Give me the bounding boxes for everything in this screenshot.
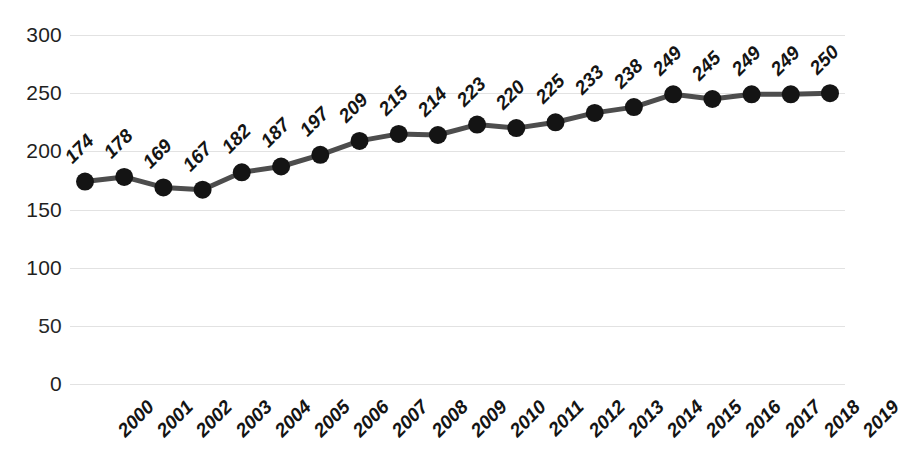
x-tick-label: 2012 (584, 396, 629, 441)
plot-area: 1741781691671821871972092152142232202252… (70, 35, 845, 384)
x-tick-label: 2011 (544, 396, 588, 440)
y-tick-label: 150 (6, 199, 62, 220)
x-tick-label: 2004 (270, 396, 315, 441)
x-tick-label: 2002 (192, 396, 237, 441)
x-tick-label: 2009 (466, 396, 511, 441)
data-point-marker (272, 158, 290, 176)
x-tick-label: 2019 (858, 396, 903, 441)
x-tick-label: 2010 (505, 396, 550, 441)
x-tick-label: 2014 (662, 396, 707, 441)
y-tick-label: 100 (6, 257, 62, 278)
data-point-marker (194, 181, 212, 199)
x-tick-label: 2017 (780, 396, 825, 441)
data-point-marker (586, 104, 604, 122)
data-point-marker (429, 126, 447, 144)
gridline (70, 384, 845, 385)
data-point-marker (625, 98, 643, 116)
data-point-marker (547, 113, 565, 131)
x-tick-label: 2018 (819, 396, 864, 441)
scan-artifact (12, 324, 23, 327)
x-axis: 2000200120022003200420052006200720082009… (70, 392, 845, 472)
data-point-marker (821, 84, 839, 102)
data-point-marker (743, 85, 761, 103)
data-point-marker (664, 85, 682, 103)
data-point-marker (154, 178, 172, 196)
x-tick-label: 2008 (427, 396, 472, 441)
y-axis: 300250200150100500 (0, 35, 62, 384)
y-tick-label: 250 (6, 82, 62, 103)
data-point-marker (703, 90, 721, 108)
x-tick-label: 2000 (113, 396, 158, 441)
series-path (85, 93, 830, 190)
data-point-marker (233, 163, 251, 181)
series-line (70, 35, 845, 384)
data-point-marker (507, 119, 525, 137)
data-point-marker (115, 168, 133, 186)
data-point-marker (782, 85, 800, 103)
y-tick-label: 50 (6, 315, 62, 336)
x-tick-label: 2003 (231, 396, 276, 441)
data-point-marker (468, 116, 486, 134)
data-point-marker (311, 146, 329, 164)
x-tick-label: 2007 (388, 396, 433, 441)
data-point-marker (76, 173, 94, 191)
x-tick-label: 2013 (623, 396, 668, 441)
x-tick-label: 2001 (153, 396, 198, 441)
x-tick-label: 2006 (349, 396, 394, 441)
y-tick-label: 300 (6, 24, 62, 45)
x-tick-label: 2015 (702, 396, 747, 441)
x-tick-label: 2016 (741, 396, 786, 441)
y-tick-label: 0 (6, 373, 62, 394)
y-tick-label: 200 (6, 140, 62, 161)
series-markers (76, 84, 839, 199)
x-tick-label: 2005 (309, 396, 354, 441)
data-point-marker (351, 132, 369, 150)
data-point-marker (390, 125, 408, 143)
